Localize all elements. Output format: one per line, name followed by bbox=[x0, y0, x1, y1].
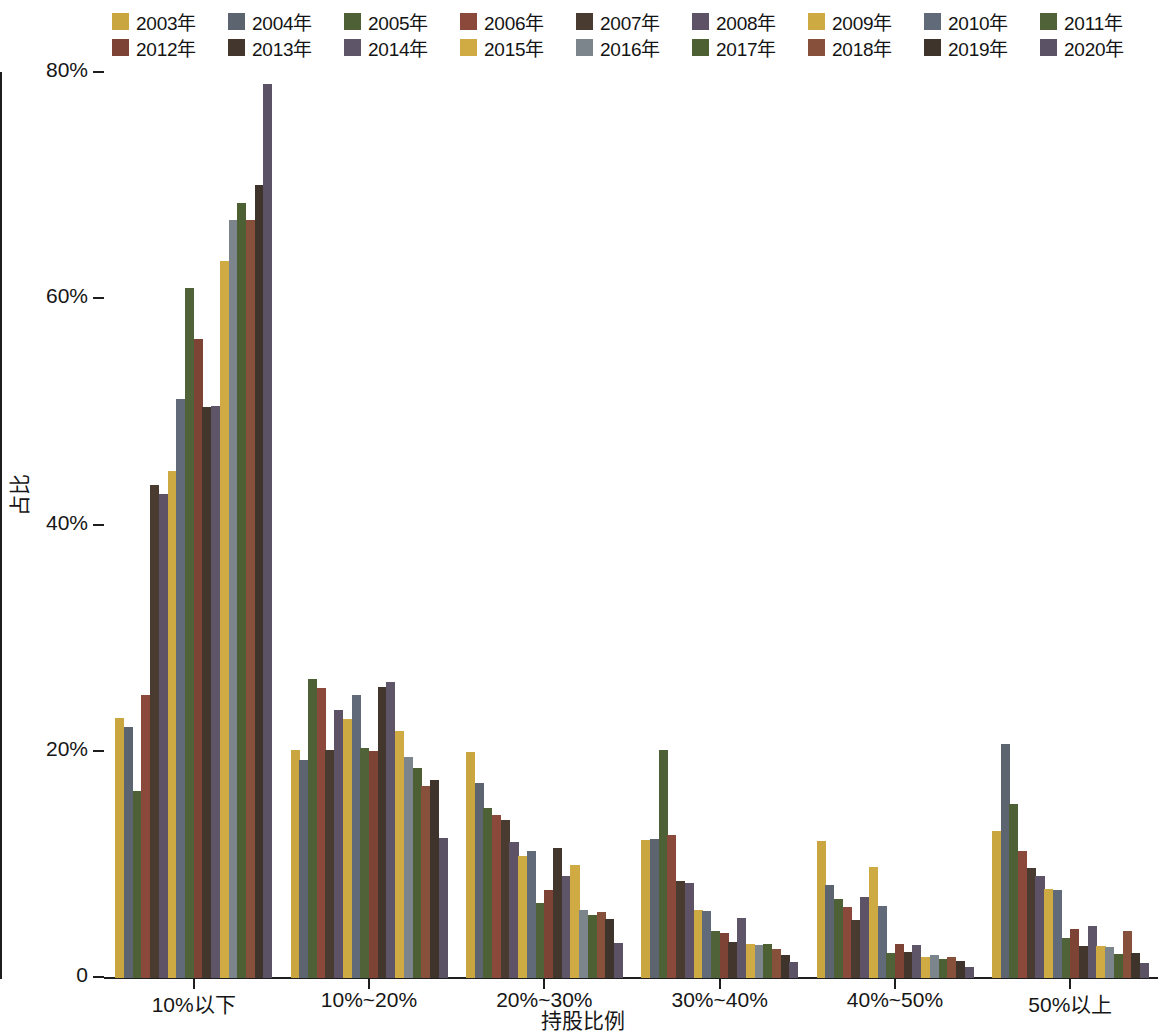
bar bbox=[150, 485, 159, 978]
y-axis-tick-mark bbox=[93, 750, 104, 752]
bar bbox=[255, 185, 264, 978]
legend-item[interactable]: 2017年 bbox=[692, 34, 808, 60]
bar bbox=[860, 897, 869, 978]
legend-item[interactable]: 2012年 bbox=[112, 34, 228, 60]
legend-item-label: 2010年 bbox=[948, 8, 1008, 35]
legend-swatch-icon bbox=[344, 13, 361, 30]
bar bbox=[869, 867, 878, 978]
bar bbox=[1044, 889, 1053, 978]
y-axis-tick-label: 40% bbox=[46, 511, 88, 535]
bar bbox=[667, 835, 676, 978]
bar bbox=[475, 783, 484, 978]
bar bbox=[562, 876, 571, 978]
bar bbox=[720, 933, 729, 978]
bar bbox=[1062, 938, 1071, 978]
bar bbox=[1079, 946, 1088, 978]
legend-item[interactable]: 2013年 bbox=[228, 34, 344, 60]
bar bbox=[878, 906, 887, 978]
legend-item[interactable]: 2005年 bbox=[344, 8, 460, 34]
bar bbox=[702, 911, 711, 978]
bar bbox=[518, 856, 527, 978]
bar bbox=[369, 751, 378, 978]
bar bbox=[579, 910, 588, 978]
bar bbox=[291, 750, 300, 979]
legend-item[interactable]: 2006年 bbox=[460, 8, 576, 34]
legend-swatch-icon bbox=[808, 39, 825, 56]
legend-item-label: 2012年 bbox=[136, 34, 196, 61]
bar bbox=[1105, 947, 1114, 978]
bar bbox=[834, 899, 843, 978]
y-axis-tick-mark bbox=[93, 976, 104, 978]
bar bbox=[659, 750, 668, 979]
bar bbox=[544, 890, 553, 978]
bar bbox=[614, 943, 623, 978]
bar bbox=[817, 841, 826, 978]
legend-swatch-icon bbox=[692, 13, 709, 30]
bar bbox=[755, 945, 764, 978]
legend-item-label: 2004年 bbox=[252, 8, 312, 35]
legend-item-label: 2009年 bbox=[832, 8, 892, 35]
bar bbox=[395, 731, 404, 978]
bar bbox=[711, 931, 720, 979]
y-axis-tick-label: 80% bbox=[46, 58, 88, 82]
legend-item-label: 2003年 bbox=[136, 8, 196, 35]
legend-item[interactable]: 2003年 bbox=[112, 8, 228, 34]
legend-item[interactable]: 2020年 bbox=[1040, 34, 1156, 60]
bar bbox=[386, 682, 395, 978]
bar bbox=[1140, 963, 1149, 978]
bar bbox=[299, 760, 308, 978]
bar-chart: 2003年2004年2005年2006年2007年2008年2009年2010年… bbox=[0, 0, 1166, 1033]
legend-item-label: 2020年 bbox=[1064, 34, 1124, 61]
y-axis-tick-mark bbox=[93, 524, 104, 526]
legend-item[interactable]: 2016年 bbox=[576, 34, 692, 60]
legend-item[interactable]: 2014年 bbox=[344, 34, 460, 60]
bar bbox=[588, 915, 597, 978]
bar bbox=[746, 944, 755, 978]
legend-item[interactable]: 2015年 bbox=[460, 34, 576, 60]
bar bbox=[605, 919, 614, 978]
bar bbox=[641, 840, 650, 978]
y-axis-tick-label: 60% bbox=[46, 284, 88, 308]
y-axis-tick-label: 20% bbox=[46, 737, 88, 761]
bars-layer bbox=[106, 72, 1158, 978]
legend-item-label: 2008年 bbox=[716, 8, 776, 35]
legend-item-label: 2011年 bbox=[1064, 8, 1123, 35]
bar bbox=[334, 710, 343, 978]
bar bbox=[202, 407, 211, 978]
bar bbox=[430, 780, 439, 978]
legend-swatch-icon bbox=[112, 13, 129, 30]
legend-swatch-icon bbox=[924, 13, 941, 30]
legend-item[interactable]: 2007年 bbox=[576, 8, 692, 34]
bar bbox=[1009, 804, 1018, 978]
bar bbox=[781, 955, 790, 978]
bar bbox=[483, 808, 492, 978]
legend-item-label: 2005年 bbox=[368, 8, 428, 35]
legend-item[interactable]: 2009年 bbox=[808, 8, 924, 34]
bar bbox=[229, 220, 238, 978]
bar bbox=[352, 695, 361, 978]
legend-item[interactable]: 2010年 bbox=[924, 8, 1040, 34]
bar bbox=[1088, 926, 1097, 978]
bar bbox=[246, 220, 255, 978]
bar bbox=[115, 718, 124, 978]
bar bbox=[378, 687, 387, 978]
x-axis-title: 持股比例 bbox=[0, 1004, 1166, 1033]
legend-swatch-icon bbox=[1040, 13, 1057, 30]
legend-item[interactable]: 2018年 bbox=[808, 34, 924, 60]
bar bbox=[912, 945, 921, 978]
legend-item[interactable]: 2011年 bbox=[1040, 8, 1156, 34]
bar bbox=[921, 957, 930, 978]
legend-item-label: 2006年 bbox=[484, 8, 544, 35]
legend-item[interactable]: 2004年 bbox=[228, 8, 344, 34]
bar bbox=[886, 953, 895, 978]
bar bbox=[317, 688, 326, 978]
bar bbox=[553, 848, 562, 978]
legend-item[interactable]: 2008年 bbox=[692, 8, 808, 34]
bar bbox=[1114, 954, 1123, 978]
legend-swatch-icon bbox=[460, 39, 477, 56]
bar bbox=[956, 961, 965, 978]
bar bbox=[220, 261, 229, 978]
bar bbox=[965, 967, 974, 978]
legend-swatch-icon bbox=[808, 13, 825, 30]
legend-item[interactable]: 2019年 bbox=[924, 34, 1040, 60]
